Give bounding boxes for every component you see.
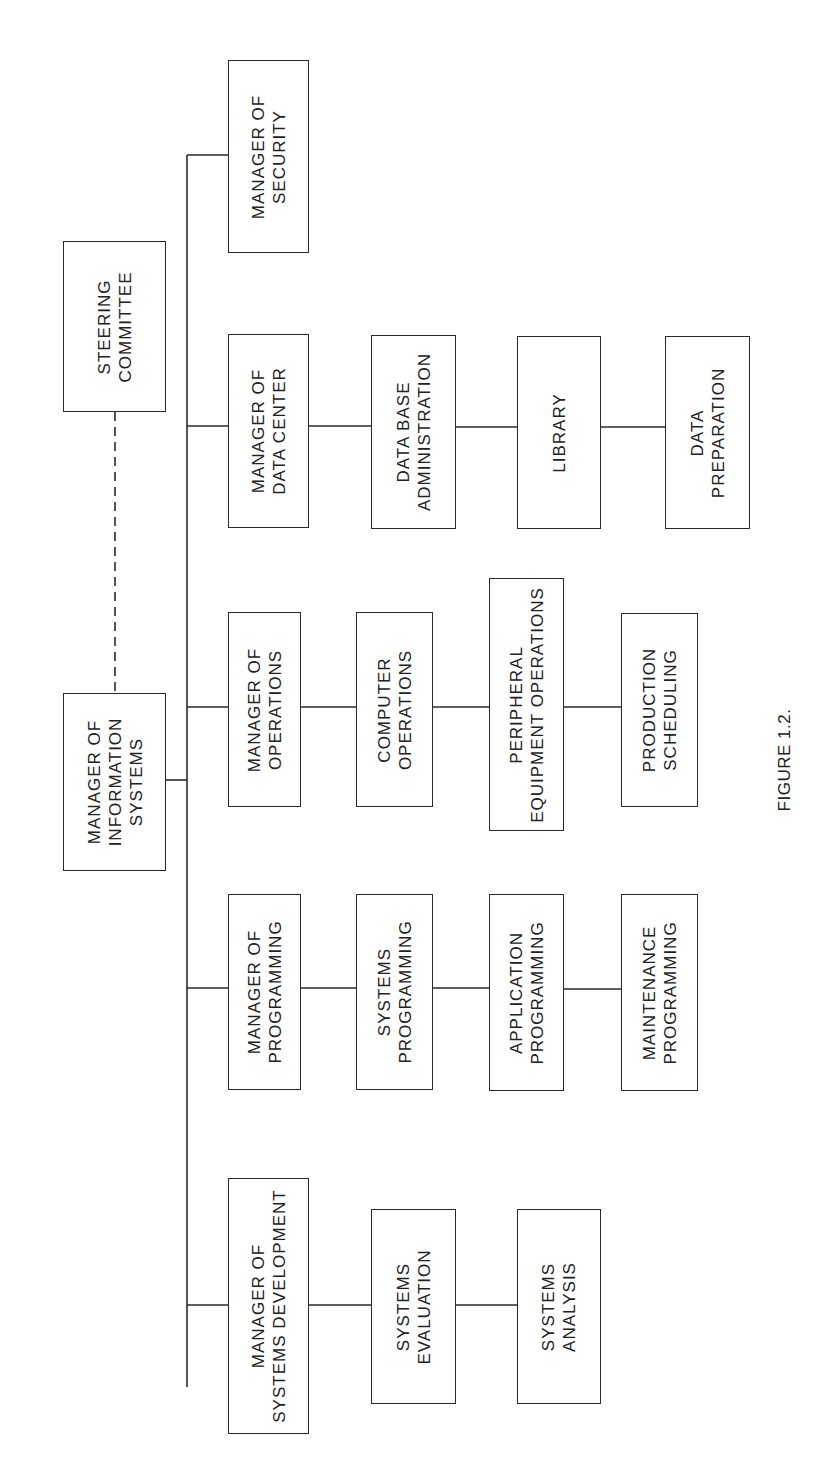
computer-operations-label: COMPUTER OPERATIONS (374, 649, 416, 769)
manager-security-label: MANAGER OF SECURITY (248, 94, 290, 218)
manager-security-box: MANAGER OF SECURITY (228, 60, 309, 253)
manager-data-center-label: MANAGER OF DATA CENTER (248, 367, 290, 495)
org-chart: STEERING COMMITTEE MANAGER OF INFORMATIO… (0, 0, 814, 1484)
systems-programming-label: SYSTEMS PROGRAMMING (374, 920, 416, 1063)
systems-analysis-box: SYSTEMS ANALYSIS (517, 1209, 601, 1404)
steering-committee-label: STEERING COMMITTEE (94, 271, 136, 382)
manager-programming-label: MANAGER OF PROGRAMMING (244, 920, 286, 1063)
peripheral-equipment-operations-label: PERIPHERAL EQUIPMENT OPERATIONS (506, 587, 548, 823)
library-label: LIBRARY (549, 393, 570, 472)
manager-systems-development-box: MANAGER OF SYSTEMS DEVELOPMENT (228, 1178, 309, 1434)
manager-operations-label: MANAGER OF OPERATIONS (244, 647, 286, 771)
systems-analysis-label: SYSTEMS ANALYSIS (538, 1262, 580, 1352)
peripheral-equipment-operations-box: PERIPHERAL EQUIPMENT OPERATIONS (489, 578, 564, 831)
manager-data-center-box: MANAGER OF DATA CENTER (228, 334, 309, 528)
data-preparation-label: DATA PREPARATION (687, 367, 729, 497)
data-base-administration-label: DATA BASE ADMINISTRATION (393, 353, 435, 511)
figure-caption: FIGURE 1.2. (775, 709, 795, 812)
maintenance-programming-label: MAINTENANCE PROGRAMMING (639, 921, 681, 1064)
library-box: LIBRARY (517, 336, 601, 529)
data-preparation-box: DATA PREPARATION (665, 336, 750, 529)
steering-committee-box: STEERING COMMITTEE (63, 241, 166, 412)
production-scheduling-box: PRODUCTION SCHEDULING (621, 613, 698, 807)
data-base-administration-box: DATA BASE ADMINISTRATION (371, 335, 456, 529)
manager-operations-box: MANAGER OF OPERATIONS (228, 612, 301, 807)
maintenance-programming-box: MAINTENANCE PROGRAMMING (621, 894, 698, 1091)
manager-systems-development-label: MANAGER OF SYSTEMS DEVELOPMENT (248, 1189, 290, 1422)
production-scheduling-label: PRODUCTION SCHEDULING (639, 648, 681, 772)
manager-information-systems-label: MANAGER OF INFORMATION SYSTEMS (83, 718, 146, 847)
application-programming-label: APPLICATION PROGRAMMING (506, 921, 548, 1064)
systems-evaluation-label: SYSTEMS EVALUATION (393, 1249, 435, 1364)
manager-information-systems-box: MANAGER OF INFORMATION SYSTEMS (63, 693, 166, 871)
systems-evaluation-box: SYSTEMS EVALUATION (371, 1209, 456, 1404)
computer-operations-box: COMPUTER OPERATIONS (356, 612, 433, 807)
application-programming-box: APPLICATION PROGRAMMING (489, 894, 564, 1091)
manager-programming-box: MANAGER OF PROGRAMMING (228, 894, 301, 1090)
systems-programming-box: SYSTEMS PROGRAMMING (356, 894, 433, 1090)
